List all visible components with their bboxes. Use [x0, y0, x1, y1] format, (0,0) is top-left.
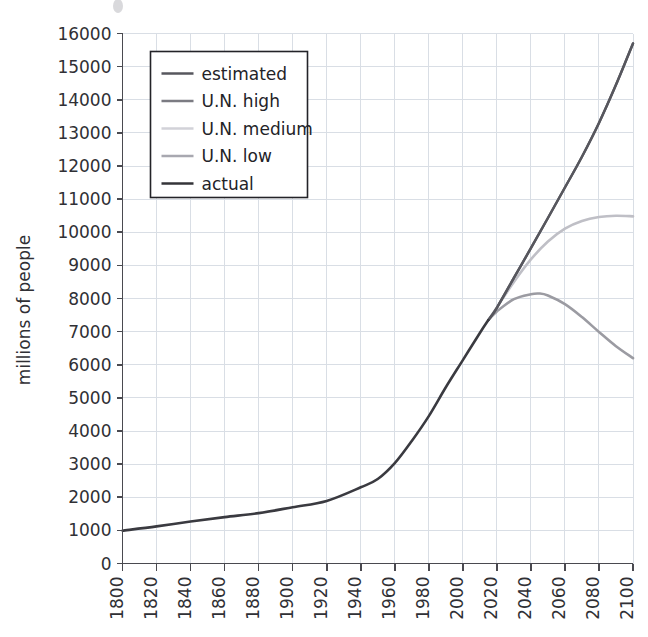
x-tick-label: 2000: [447, 577, 467, 620]
y-tick-label: 6000: [68, 355, 111, 375]
x-tick-label: 1980: [413, 577, 433, 620]
x-tick-label: 2080: [583, 577, 603, 620]
y-tick-label: 10000: [57, 222, 111, 242]
y-tick-label: 4000: [68, 421, 111, 441]
legend-label-u-n-medium: U.N. medium: [202, 119, 313, 139]
x-tick-label: 1800: [107, 577, 127, 620]
legend-label-u-n-high: U.N. high: [202, 91, 280, 111]
y-tick-label: 3000: [68, 454, 111, 474]
y-tick-label: 8000: [68, 289, 111, 309]
x-tick-label: 1960: [379, 577, 399, 620]
y-tick-label: 5000: [68, 388, 111, 408]
x-tick-label: 1940: [345, 577, 365, 620]
y-tick-label: 14000: [57, 90, 111, 110]
x-tick-label: 1880: [243, 577, 263, 620]
x-tick-label: 1820: [141, 577, 161, 620]
x-tick-label: 2020: [481, 577, 501, 620]
legend-label-actual: actual: [202, 174, 254, 194]
y-tick-label: 1000: [68, 520, 111, 540]
y-tick-label: 12000: [57, 156, 111, 176]
x-tick-label: 2060: [549, 577, 569, 620]
y-tick-label: 7000: [68, 322, 111, 342]
x-tick-label: 1900: [277, 577, 297, 620]
y-tick-label: 13000: [57, 123, 111, 143]
y-tick-label: 9000: [68, 255, 111, 275]
chart-canvas: 1800182018401860188019001920194019601980…: [0, 0, 648, 637]
y-tick-label: 16000: [57, 24, 111, 44]
y-tick-label: 2000: [68, 487, 111, 507]
y-tick-label: 11000: [57, 189, 111, 209]
legend-label-u-n-low: U.N. low: [202, 146, 272, 166]
x-tick-label: 2100: [617, 577, 637, 620]
y-tick-label: 0: [101, 554, 112, 574]
x-tick-label: 2040: [515, 577, 535, 620]
y-tick-label: 15000: [57, 57, 111, 77]
x-tick-label: 1860: [209, 577, 229, 620]
x-tick-label: 1840: [175, 577, 195, 620]
legend-label-estimated: estimated: [202, 64, 288, 84]
population-projection-chart: 1800182018401860188019001920194019601980…: [0, 0, 648, 637]
y-axis-title-text: millions of people: [14, 235, 34, 385]
y-axis-title: millions of people: [14, 235, 34, 385]
x-tick-label: 1920: [311, 577, 331, 620]
chart-legend: estimatedU.N. highU.N. mediumU.N. lowact…: [151, 52, 313, 198]
